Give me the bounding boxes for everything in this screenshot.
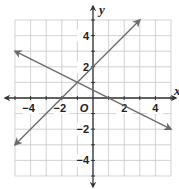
y-tick-label: −4 xyxy=(76,154,89,166)
y-tick-label: 4 xyxy=(83,30,90,42)
origin-label: O xyxy=(80,102,89,114)
y-tick-label: −2 xyxy=(76,123,89,135)
x-tick-label: 4 xyxy=(152,102,159,114)
x-axis-label: x xyxy=(173,83,179,98)
axes: yx xyxy=(5,2,179,187)
x-tick-label: −4 xyxy=(22,102,35,114)
y-axis-label: y xyxy=(97,2,105,17)
x-tick-label: 2 xyxy=(121,102,127,114)
coordinate-plane: yx O−4−22442−2−4 xyxy=(0,0,179,189)
